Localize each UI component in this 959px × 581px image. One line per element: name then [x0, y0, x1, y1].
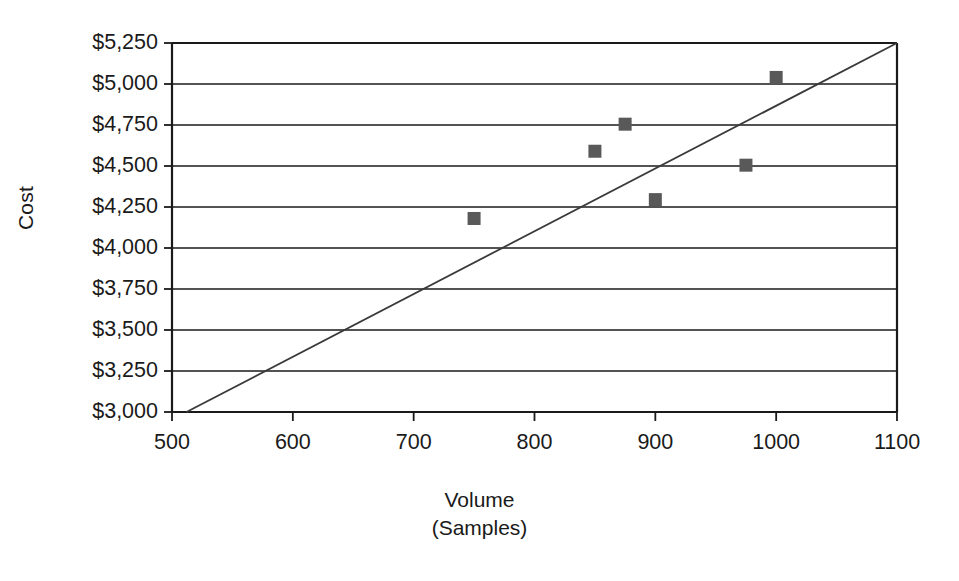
x-axis-ticks [172, 412, 897, 421]
data-point-marker: 1000, $5,040 [770, 71, 783, 84]
plot-frame [172, 43, 897, 412]
cost-vs-volume-chart: Cost $3,000$3,250$3,500$3,750$4,000$4,25… [0, 0, 959, 581]
trend-line [187, 43, 898, 412]
y-axis-ticks [164, 43, 172, 412]
data-point-marker: 975, $4,505 [739, 159, 752, 172]
x-axis-title-line-1: Volume [0, 487, 959, 514]
data-point-group: 750, $4,180850, $4,590875, $4,755900, $4… [468, 71, 783, 225]
data-point-marker: 875, $4,755 [619, 118, 632, 131]
trend-line-group [187, 43, 898, 412]
data-point-marker: 900, $4,295 [649, 193, 662, 206]
x-axis-title-line-2: (Samples) [0, 515, 959, 542]
data-point-marker: 850, $4,590 [588, 145, 601, 158]
data-point-marker: 750, $4,180 [468, 212, 481, 225]
gridlines [172, 43, 897, 371]
